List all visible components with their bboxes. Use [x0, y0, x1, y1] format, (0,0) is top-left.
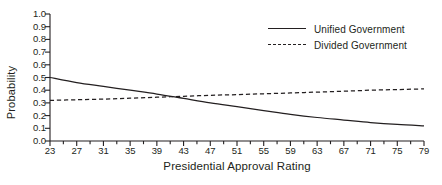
legend-item: Divided Government [268, 37, 438, 53]
chart-figure: Probability 0.00.10.20.30.40.50.60.70.80… [0, 0, 442, 185]
x-axis-title: Presidential Approval Rating [50, 160, 424, 172]
series-line [50, 89, 424, 100]
legend-line-swatch-solid [268, 24, 306, 34]
series-line [50, 78, 424, 126]
legend-label: Divided Government [306, 40, 407, 51]
legend-line-swatch-dashed [268, 40, 306, 50]
legend-item: Unified Government [268, 21, 438, 37]
legend: Unified GovernmentDivided Government [268, 21, 438, 53]
legend-label: Unified Government [306, 24, 405, 35]
data-series [50, 78, 424, 126]
